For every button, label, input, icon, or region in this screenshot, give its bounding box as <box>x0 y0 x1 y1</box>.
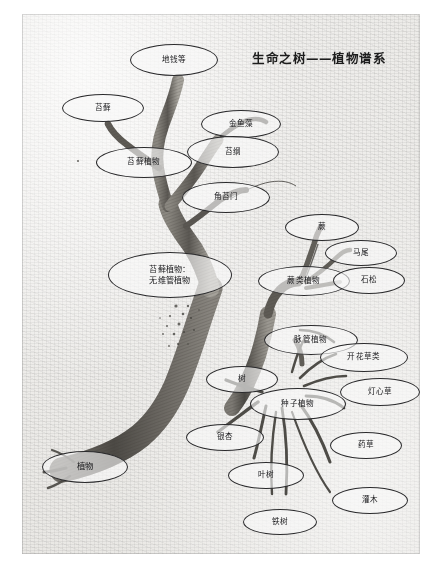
node-shu[interactable]: 树 <box>206 366 278 393</box>
node-taixian-wwg[interactable]: 苔藓植物： 无维管植物 <box>108 252 232 298</box>
diagram-canvas: 生命之树——植物谱系 地钱等苔藓金鱼藻苔纲苔藓植物角苔门蕨马尾苔藓植物： 无维管… <box>0 0 437 568</box>
node-jinyuzao[interactable]: 金鱼藻 <box>201 110 281 138</box>
node-zhiwu[interactable]: 植物 <box>42 451 128 483</box>
node-taixian-zhiwu[interactable]: 苔藓植物 <box>96 147 192 178</box>
node-yinxing[interactable]: 银杏 <box>186 424 264 451</box>
node-yaocao[interactable]: 药草 <box>330 432 402 459</box>
node-tieshu[interactable]: 铁树 <box>243 509 317 535</box>
node-guanmu[interactable]: 灌木 <box>332 487 408 514</box>
node-jue[interactable]: 蕨 <box>285 214 359 241</box>
node-taigang[interactable]: 苔纲 <box>187 136 279 168</box>
node-yeshu[interactable]: 叶树 <box>228 462 304 489</box>
node-taixian[interactable]: 苔藓 <box>62 94 144 122</box>
node-diqian[interactable]: 地钱等 <box>130 44 218 76</box>
node-shisong[interactable]: 石松 <box>333 267 405 294</box>
node-zhongzi[interactable]: 种子植物 <box>250 388 346 420</box>
node-jiaotaimen[interactable]: 角苔门 <box>182 182 270 213</box>
node-kaihua[interactable]: 开花草类 <box>320 343 408 372</box>
stray-pencil-mark <box>77 160 79 162</box>
diagram-title: 生命之树——植物谱系 <box>252 48 386 67</box>
node-mawei[interactable]: 马尾 <box>325 240 397 266</box>
node-dengxincao[interactable]: 灯心草 <box>340 378 420 406</box>
